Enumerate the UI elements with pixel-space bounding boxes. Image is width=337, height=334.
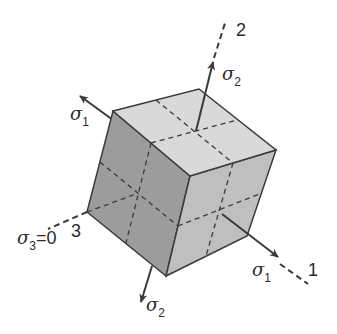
stress-cube-diagram: 2 1 3 σ2 σ1 σ1 σ2 σ3=0 — [0, 0, 337, 334]
sigma2-upper-label: σ2 — [222, 63, 241, 89]
sigma2-lower-label: σ2 — [146, 294, 165, 320]
sigma1-lower-label: σ1 — [252, 259, 271, 285]
axis-1-line — [280, 264, 308, 284]
axis-3-label: 3 — [71, 221, 81, 241]
axis-3-line — [48, 212, 87, 229]
axis-1-label: 1 — [308, 260, 318, 280]
sigma1-upper-label: σ1 — [70, 103, 89, 129]
axis-2-line — [214, 20, 226, 58]
axis-2-label: 2 — [236, 20, 246, 40]
sigma3-label: σ3=0 — [17, 227, 57, 253]
